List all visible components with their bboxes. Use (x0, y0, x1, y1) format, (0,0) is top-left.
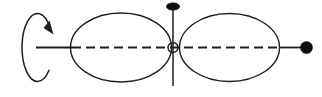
rotating-dumbbell-diagram (0, 0, 322, 97)
end-mass-dot (300, 41, 313, 54)
top-pin-ellipse (167, 3, 180, 10)
rotation-arrow-head-icon (44, 21, 54, 35)
diagram-canvas (0, 0, 322, 97)
